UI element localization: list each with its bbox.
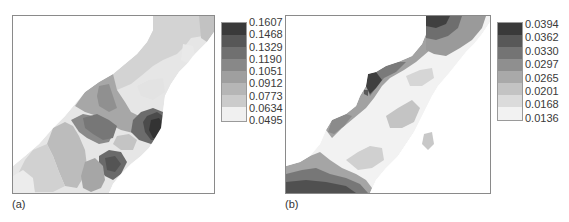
legend-value: 0.0362 [525, 31, 559, 44]
legend-swatch [222, 59, 246, 71]
legend-swatch [498, 71, 522, 83]
legend-value: 0.0265 [525, 72, 559, 85]
heatmap-raster-a [13, 16, 214, 193]
legend-swatch [222, 71, 246, 83]
legend-value: 0.1468 [249, 28, 283, 40]
legend-colorbar-b [497, 22, 523, 121]
legend-value: 0.0634 [249, 102, 283, 114]
legend-swatch [498, 83, 522, 95]
legend-swatch [498, 59, 522, 71]
legend-value: 0.1190 [249, 53, 283, 65]
legend-value: 0.0912 [249, 77, 283, 89]
legend-value: 0.0773 [249, 90, 283, 102]
legend-value: 0.0168 [525, 98, 559, 111]
legend-labels-b: 0.0394 0.0362 0.0330 0.0297 0.0265 0.020… [525, 18, 559, 125]
map-panel-a [12, 15, 215, 194]
legend-swatch [222, 47, 246, 59]
heatmap-raster-b [286, 16, 490, 193]
legend-value: 0.1051 [249, 65, 283, 77]
legend-swatch [222, 83, 246, 95]
legend-value: 0.0201 [525, 85, 559, 98]
legend-swatch [222, 95, 246, 107]
panel-label-a: (a) [12, 198, 25, 210]
legend-swatch [222, 23, 246, 35]
legend-value: 0.1607 [249, 16, 283, 28]
legend-value: 0.0394 [525, 18, 559, 31]
legend-swatch [498, 47, 522, 59]
legend-swatch [222, 35, 246, 47]
legend-value: 0.0495 [249, 114, 283, 126]
legend-colorbar-a [221, 22, 247, 122]
map-panel-b [285, 15, 491, 194]
legend-labels-a: 0.1607 0.1468 0.1329 0.1190 0.1051 0.091… [249, 16, 283, 127]
panel-label-b: (b) [285, 198, 298, 210]
legend-swatch [498, 107, 522, 120]
legend-value: 0.0136 [525, 112, 559, 125]
legend-swatch [498, 35, 522, 47]
legend-value: 0.1329 [249, 41, 283, 53]
legend-value: 0.0330 [525, 45, 559, 58]
legend-swatch [222, 107, 246, 121]
legend-value: 0.0297 [525, 58, 559, 71]
legend-swatch [498, 95, 522, 107]
legend-swatch [498, 23, 522, 35]
